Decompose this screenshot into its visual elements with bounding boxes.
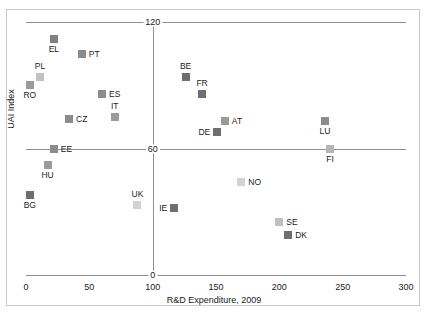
gridline-y-120 xyxy=(26,22,406,23)
data-point-fr[interactable] xyxy=(198,90,206,98)
data-point-label-lu: LU xyxy=(319,127,330,136)
data-point-label-ro: RO xyxy=(23,91,36,100)
gridline-y-60 xyxy=(26,149,406,150)
data-point-no[interactable] xyxy=(237,178,245,186)
y-tick-label-120: 120 xyxy=(143,18,162,27)
data-point-label-it: IT xyxy=(111,102,119,111)
data-point-ee[interactable] xyxy=(50,145,58,153)
data-point-label-uk: UK xyxy=(132,190,144,199)
data-point-lu[interactable] xyxy=(321,117,329,125)
y-tick-label-0: 0 xyxy=(148,271,157,280)
data-point-cz[interactable] xyxy=(65,115,73,123)
data-point-de[interactable] xyxy=(213,128,221,136)
data-point-label-at: AT xyxy=(232,117,242,126)
data-point-hu[interactable] xyxy=(44,161,52,169)
y-tick-label-60: 60 xyxy=(146,144,160,153)
data-point-label-ie: IE xyxy=(159,203,167,212)
data-point-bg[interactable] xyxy=(26,191,34,199)
x-tick-label-150: 150 xyxy=(208,282,223,292)
data-point-label-pt: PT xyxy=(89,49,100,58)
data-point-label-no: NO xyxy=(248,178,261,187)
data-point-label-fr: FR xyxy=(196,79,207,88)
data-point-pl[interactable] xyxy=(36,73,44,81)
data-point-it[interactable] xyxy=(111,113,119,121)
plot-area: 060120050100150200250300ELPTPLROESITCZBE… xyxy=(26,22,406,275)
x-tick-label-100: 100 xyxy=(145,282,160,292)
data-point-be[interactable] xyxy=(182,73,190,81)
chart-page: 060120050100150200250300ELPTPLROESITCZBE… xyxy=(0,0,428,313)
gridline-y-0 xyxy=(26,275,406,276)
data-point-label-se: SE xyxy=(286,218,297,227)
x-tick-label-250: 250 xyxy=(335,282,350,292)
data-point-label-pl: PL xyxy=(35,62,45,71)
data-point-label-bg: BG xyxy=(24,201,36,210)
data-point-pt[interactable] xyxy=(78,50,86,58)
data-point-label-dk: DK xyxy=(295,230,307,239)
data-point-label-es: ES xyxy=(109,89,120,98)
data-point-label-ee: EE xyxy=(61,144,72,153)
data-point-es[interactable] xyxy=(98,90,106,98)
x-tick-label-50: 50 xyxy=(84,282,94,292)
y-axis-title: UAI Index xyxy=(6,54,16,164)
x-tick-label-200: 200 xyxy=(272,282,287,292)
data-point-dk[interactable] xyxy=(284,231,292,239)
data-point-uk[interactable] xyxy=(133,201,141,209)
x-axis-title: R&D Expenditure, 2009 xyxy=(0,295,428,305)
data-point-label-de: DE xyxy=(198,127,210,136)
data-point-fi[interactable] xyxy=(326,145,334,153)
data-point-se[interactable] xyxy=(275,218,283,226)
x-tick-label-0: 0 xyxy=(23,282,28,292)
data-point-ie[interactable] xyxy=(170,204,178,212)
data-point-label-fi: FI xyxy=(326,155,334,164)
data-point-ro[interactable] xyxy=(26,81,34,89)
data-point-label-el: EL xyxy=(49,45,59,54)
data-point-label-hu: HU xyxy=(41,171,53,180)
data-point-at[interactable] xyxy=(221,117,229,125)
data-point-label-cz: CZ xyxy=(76,114,87,123)
x-tick-label-300: 300 xyxy=(398,282,413,292)
data-point-label-be: BE xyxy=(180,62,191,71)
data-point-el[interactable] xyxy=(50,35,58,43)
